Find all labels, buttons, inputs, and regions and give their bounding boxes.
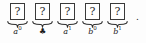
unknown-box-4: ? [85, 3, 100, 20]
cell-label-2-club-suit: ♣ [39, 28, 46, 36]
cell-group-1: ? a0 [5, 3, 30, 36]
cell-label-4: b0 [88, 28, 97, 36]
question-mark-glyph: ? [115, 6, 121, 17]
unknown-box-2: ? [35, 3, 50, 20]
cell-label-5: b1 [113, 28, 122, 36]
unknown-box-3: ? [60, 3, 75, 20]
question-mark-glyph: ? [40, 6, 46, 17]
cell-label-3: a1 [63, 28, 71, 36]
question-mark-glyph: ? [15, 6, 21, 17]
cell-group-2: ? ♣ [30, 3, 55, 36]
trailing-period: . [136, 13, 139, 22]
question-mark-glyph: ? [65, 6, 71, 17]
cell-group-3: ? a1 [55, 3, 80, 36]
unknown-box-1: ? [10, 3, 25, 20]
cell-group-5: ? b1 [105, 3, 130, 36]
cell-label-1: a0 [13, 28, 21, 36]
cell-row: ? a0 ? ♣ ? [5, 3, 130, 36]
club-suit-icon: ♣ [39, 27, 46, 36]
cell-group-4: ? b0 [80, 3, 105, 36]
question-mark-glyph: ? [90, 6, 96, 17]
boxed-sequence-figure: ? a0 ? ♣ ? [0, 0, 146, 43]
unknown-box-5: ? [110, 3, 125, 20]
